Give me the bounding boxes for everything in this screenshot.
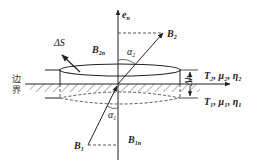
b1-label: B1 [73, 140, 84, 152]
delta-s-arrow [62, 55, 80, 72]
b2-label: B2 [166, 28, 177, 40]
alpha2-arc [118, 60, 135, 65]
pillbox-bottom [60, 92, 180, 104]
alpha2-label: α2 [127, 46, 135, 58]
boundary-label-top: 边 [12, 74, 21, 84]
b1n-label: B1n [127, 134, 142, 146]
alpha1-label: α1 [108, 109, 116, 121]
delta-h-label: Δh [183, 75, 194, 87]
delta-s-label: ΔS [53, 37, 65, 48]
boundary-condition-diagram: en B2 B2n α2 ΔS Δh T₂, μ₂, η₂ T₁, μ₁, η₁… [0, 0, 257, 168]
b2-vector [118, 33, 163, 84]
medium2-label: T₂, μ₂, η₂ [204, 70, 242, 81]
b2n-label: B2n [91, 44, 106, 56]
normal-label: en [122, 9, 130, 21]
boundary-label-bottom: 界 [12, 85, 21, 95]
medium1-label: T₁, μ₁, η₁ [204, 96, 242, 107]
